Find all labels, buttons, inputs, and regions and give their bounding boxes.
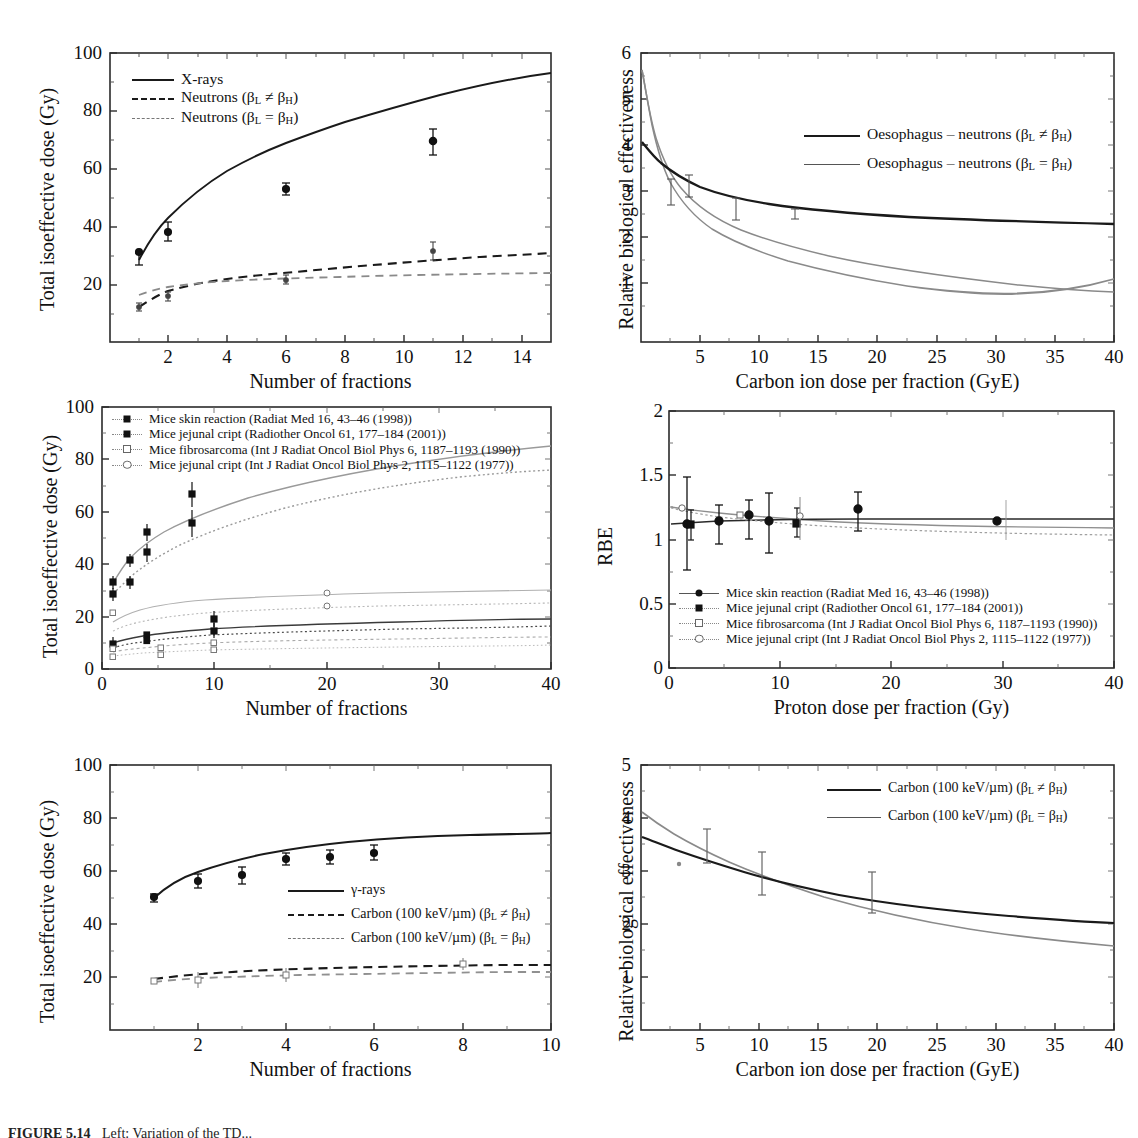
legend-item[interactable]: Mice fibrosarcoma (Int J Radiat Oncol Bi… <box>679 616 1097 631</box>
ytick-bottom-left-80: 80 <box>58 807 102 829</box>
ytick-middle-right-1-0: 1 <box>617 529 663 551</box>
legend-item[interactable]: Carbon (100 keV/µm) (βL ≠ βH) <box>827 780 1067 797</box>
legend-item[interactable]: Mice jejunal cript (Radiother Oncol 61, … <box>679 600 1097 615</box>
ytick-top-left-100: 100 <box>58 42 102 64</box>
legend-item[interactable]: Carbon (100 keV/µm) (βL ≠ βH) <box>288 906 530 923</box>
legend-item[interactable]: Carbon (100 keV/µm) (βL = βH) <box>827 808 1067 825</box>
legend-middle-left: Mice skin reaction (Radiat Med 16, 43–46… <box>112 411 520 472</box>
xtick-bottom-left-8: 8 <box>458 1034 468 1056</box>
legend-label: Neutrons (βL ≠ βH) <box>181 88 298 108</box>
ytick-top-right-5: 5 <box>601 88 631 110</box>
xtick-bottom-left-4: 4 <box>281 1034 291 1056</box>
legend-key-dashed-line-icon <box>132 91 174 105</box>
ytick-top-right-4: 4 <box>601 134 631 156</box>
legend-label: Mice jejunal cript (Radiother Oncol 61, … <box>726 600 1023 615</box>
axis-label-y-middle-right: RBE <box>594 507 617 587</box>
ytick-bottom-left-100: 100 <box>58 754 102 776</box>
legend-label: Oesophagus – neutrons (βL ≠ βH) <box>867 125 1072 145</box>
legend-item[interactable]: Mice skin reaction (Radiat Med 16, 43–46… <box>112 411 520 426</box>
legend-key-line-open-square-icon <box>112 442 142 456</box>
figure-caption-text: Left: Variation of the TD... <box>102 1126 252 1138</box>
legend-key-line-open-circle-icon <box>679 632 719 646</box>
ytick-bottom-right-2: 2 <box>601 913 631 935</box>
axis-label-y-middle-left: Total isoeffective dose (Gy) <box>39 402 62 692</box>
xtick-top-right-15: 15 <box>809 346 828 368</box>
legend-label: Mice jejunal cript (Radiother Oncol 61, … <box>149 426 446 441</box>
legend-key-solid-line-icon <box>132 72 174 86</box>
xtick-top-right-20: 20 <box>868 346 887 368</box>
ytick-bottom-left-20: 20 <box>58 966 102 988</box>
xtick-middle-right-40: 40 <box>1105 672 1124 694</box>
ytick-middle-left-40: 40 <box>50 553 94 575</box>
legend-label: Mice jejunal cript (Int J Radiat Oncol B… <box>726 631 1091 646</box>
legend-item[interactable]: Mice jejunal cript (Int J Radiat Oncol B… <box>679 631 1097 646</box>
ytick-middle-left-0: 0 <box>50 658 94 680</box>
legend-key-dashed-grey-line-icon <box>288 931 344 945</box>
legend-label: Carbon (100 keV/µm) (βL ≠ βH) <box>888 780 1067 797</box>
legend-label: Mice skin reaction (Radiat Med 16, 43–46… <box>726 585 989 600</box>
legend-key-dash-filled-square-icon <box>679 601 719 615</box>
legend-label: Carbon (100 keV/µm) (βL = βH) <box>888 808 1067 825</box>
legend-item[interactable]: Mice jejunal cript (Radiother Oncol 61, … <box>112 426 520 441</box>
ytick-bottom-right-3: 3 <box>601 860 631 882</box>
axis-label-x-top-right: Carbon ion dose per fraction (GyE) <box>641 370 1114 393</box>
ytick-bottom-left-60: 60 <box>58 860 102 882</box>
legend-key-solid-grey-line-icon <box>827 810 881 824</box>
legend-item[interactable]: Mice jejunal cript (Int J Radiat Oncol B… <box>112 457 520 472</box>
ytick-middle-right-0-5: 0.5 <box>617 593 663 615</box>
xtick-middle-left-10: 10 <box>205 673 224 695</box>
legend-item[interactable]: X-rays <box>132 70 298 88</box>
ytick-top-left-40: 40 <box>58 215 102 237</box>
axis-label-x-bottom-right: Carbon ion dose per fraction (GyE) <box>641 1058 1114 1081</box>
ytick-bottom-left-40: 40 <box>58 913 102 935</box>
xtick-middle-left-40: 40 <box>542 673 561 695</box>
xtick-top-left-12: 12 <box>454 346 473 368</box>
legend-item[interactable]: Neutrons (βL ≠ βH) <box>132 88 298 108</box>
legend-key-dashed-line-icon <box>288 907 344 921</box>
legend-label: Oesophagus – neutrons (βL = βH) <box>867 154 1072 174</box>
legend-key-solid-grey-line-icon <box>804 157 860 171</box>
xtick-top-left-8: 8 <box>340 346 350 368</box>
xtick-bottom-right-5: 5 <box>695 1034 705 1056</box>
xtick-top-left-14: 14 <box>513 346 532 368</box>
panel-bottom-right: Relative biological effectiveness 5 4 3 … <box>569 752 1138 1092</box>
legend-middle-right: Mice skin reaction (Radiat Med 16, 43–46… <box>679 585 1097 646</box>
legend-item[interactable]: Oesophagus – neutrons (βL = βH) <box>804 154 1072 174</box>
ytick-middle-right-1-5: 1.5 <box>617 464 663 486</box>
xtick-top-left-10: 10 <box>395 346 414 368</box>
legend-label: Mice skin reaction (Radiat Med 16, 43–46… <box>149 411 412 426</box>
panel-middle-right: RBE 2 1.5 1 0.5 0 <box>569 395 1138 745</box>
legend-label: Mice fibrosarcoma (Int J Radiat Oncol Bi… <box>726 616 1097 631</box>
legend-label: Mice fibrosarcoma (Int J Radiat Oncol Bi… <box>149 442 520 457</box>
xtick-top-right-30: 30 <box>987 346 1006 368</box>
ytick-middle-left-60: 60 <box>50 501 94 523</box>
ytick-middle-right-0-0: 0 <box>617 657 663 679</box>
xtick-bottom-right-30: 30 <box>987 1034 1006 1056</box>
ytick-top-right-2: 2 <box>601 226 631 248</box>
legend-item[interactable]: Oesophagus – neutrons (βL ≠ βH) <box>804 125 1072 145</box>
legend-item[interactable]: Mice skin reaction (Radiat Med 16, 43–46… <box>679 585 1097 600</box>
legend-item[interactable]: Carbon (100 keV/µm) (βL = βH) <box>288 930 530 947</box>
xtick-bottom-left-10: 10 <box>542 1034 561 1056</box>
legend-top-left: X-rays Neutrons (βL ≠ βH) Neutrons (βL =… <box>132 70 298 128</box>
legend-label: X-rays <box>181 70 223 88</box>
panel-top-left: Total isoeffective dose (Gy) 100 80 60 4… <box>0 30 569 390</box>
figure-caption: FIGURE 5.14 Left: Variation of the TD... <box>8 1126 252 1138</box>
xtick-bottom-right-25: 25 <box>928 1034 947 1056</box>
xtick-bottom-right-10: 10 <box>750 1034 769 1056</box>
figure-caption-label: FIGURE 5.14 <box>8 1126 90 1138</box>
xtick-top-left-2: 2 <box>163 346 173 368</box>
xtick-middle-right-10: 10 <box>771 672 790 694</box>
legend-key-line-filled-circle-icon <box>679 586 719 600</box>
legend-item[interactable]: Mice fibrosarcoma (Int J Radiat Oncol Bi… <box>112 442 520 457</box>
ytick-top-right-6: 6 <box>601 42 631 64</box>
axis-label-x-bottom-left: Number of fractions <box>110 1058 551 1081</box>
ytick-top-left-60: 60 <box>58 157 102 179</box>
ytick-middle-left-20: 20 <box>50 606 94 628</box>
legend-key-line-filled-square-icon <box>112 412 142 426</box>
legend-label: Carbon (100 keV/µm) (βL = βH) <box>351 930 530 947</box>
legend-bottom-left: γ-rays Carbon (100 keV/µm) (βL ≠ βH) Car… <box>288 882 530 947</box>
legend-item[interactable]: γ-rays <box>288 882 530 899</box>
legend-item[interactable]: Neutrons (βL = βH) <box>132 108 298 128</box>
legend-label: γ-rays <box>351 882 385 899</box>
